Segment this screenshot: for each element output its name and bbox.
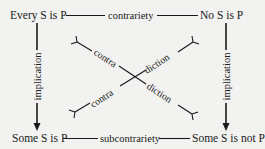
relation-bottom-label: subcontrariety <box>100 133 161 144</box>
corner-top-left: Every S is P <box>10 9 67 22</box>
fork-tip-icon <box>71 36 77 44</box>
arrow-down-icon <box>223 123 230 131</box>
diagonal-label-diction: diction <box>142 51 171 75</box>
square-of-opposition-diagram: Every S is P contrariety No S is P Some … <box>0 0 265 149</box>
relation-top-label: contrariety <box>108 10 154 21</box>
fork-tip-icon <box>69 110 75 118</box>
fork-tip-icon <box>192 112 198 120</box>
arrow-down-icon <box>34 123 41 131</box>
corner-top-right: No S is P <box>200 9 243 21</box>
relation-right-label: implication <box>221 52 232 101</box>
diagonal-label-diction: diction <box>145 80 174 104</box>
diagonal-label-contra: contra <box>88 87 115 110</box>
fork-tip-icon <box>192 36 199 44</box>
relation-left-label: implication <box>32 52 43 101</box>
diagonal-label-contra: contra <box>92 46 119 69</box>
corner-bottom-right: Some S is not P <box>192 132 265 144</box>
diagonal-contradiction-descending: contra diction <box>71 36 198 120</box>
corner-bottom-left: Some S is P <box>12 132 67 144</box>
